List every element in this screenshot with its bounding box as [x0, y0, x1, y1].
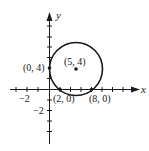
- label-2-0: (2, 0): [53, 93, 75, 105]
- label-center: (5, 4): [64, 56, 86, 68]
- y-axis-label: y: [55, 9, 61, 21]
- x-axis-label: x: [140, 83, 146, 95]
- y-axis-arrow-icon: [47, 12, 53, 21]
- x-tick-label-neg2: −2: [19, 93, 30, 104]
- point-8-0: [90, 88, 94, 92]
- label-8-0: (8, 0): [89, 93, 111, 105]
- x-axis-arrow-icon: [131, 87, 140, 93]
- point-2-0: [58, 88, 62, 92]
- center-point: [74, 67, 78, 71]
- point-0-4: [48, 66, 52, 70]
- label-0-4: (0, 4): [23, 62, 45, 74]
- coordinate-plane: y x −2 −2 (5, 4) (0, 4) (2, 0) (8, 0): [0, 0, 149, 151]
- y-tick-label-neg2: −2: [33, 105, 44, 116]
